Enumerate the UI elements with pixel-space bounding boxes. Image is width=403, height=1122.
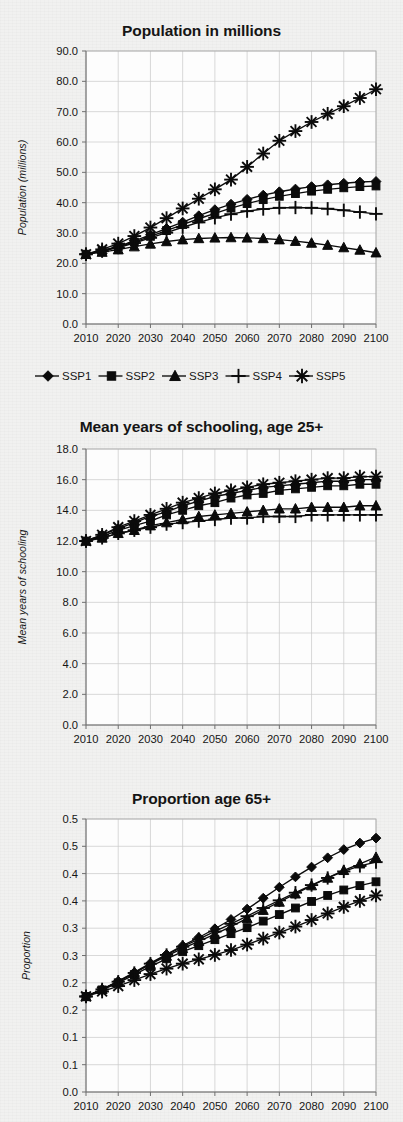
chart-proportion65: Proportion age 65+ 0.00.10.10.20.20.30.3… bbox=[0, 764, 403, 1122]
marker-square bbox=[107, 371, 115, 379]
x-tick-label: 2080 bbox=[299, 332, 324, 344]
x-tick-label: 2030 bbox=[138, 733, 163, 745]
y-tick-label: 0.1 bbox=[62, 1031, 78, 1043]
x-tick-label: 2060 bbox=[235, 332, 260, 344]
y-axis: 0.010.020.030.040.050.060.070.080.090.0 bbox=[56, 45, 86, 330]
x-tick-label: 2100 bbox=[364, 733, 389, 745]
x-tick-label: 2040 bbox=[170, 332, 195, 344]
figure-page: Population in millions 0.010.020.030.040… bbox=[0, 0, 403, 1122]
legend-entry-SSP3[interactable]: SSP3 bbox=[162, 370, 218, 382]
x-tick-label: 2050 bbox=[202, 733, 227, 745]
marker-square bbox=[308, 187, 316, 195]
marker-square bbox=[292, 904, 300, 912]
x-tick-label: 2080 bbox=[299, 733, 324, 745]
plot-background bbox=[86, 51, 376, 324]
y-axis-title: Proportion bbox=[20, 931, 32, 980]
x-tick-label: 2060 bbox=[235, 1100, 260, 1112]
y-tick-label: 0.0 bbox=[62, 318, 78, 330]
x-tick-label: 2100 bbox=[364, 332, 389, 344]
marker-square bbox=[372, 877, 380, 885]
y-tick-label: 6.0 bbox=[62, 627, 78, 639]
y-tick-label: 20.0 bbox=[56, 257, 78, 269]
y-tick-label: 0.2 bbox=[62, 976, 78, 988]
y-tick-label: 0.2 bbox=[62, 1004, 78, 1016]
y-tick-label: 0.0 bbox=[62, 719, 78, 731]
x-tick-label: 2010 bbox=[74, 733, 99, 745]
y-tick-label: 40.0 bbox=[56, 196, 78, 208]
y-tick-label: 30.0 bbox=[56, 227, 78, 239]
y-tick-label: 80.0 bbox=[56, 75, 78, 87]
marker-square bbox=[356, 182, 364, 190]
chart-plot-area: 0.02.04.06.08.010.012.014.016.018.020102… bbox=[0, 437, 403, 767]
legend-label: SSP4 bbox=[253, 370, 283, 382]
population-plot-svg: 0.010.020.030.040.050.060.070.080.090.02… bbox=[0, 41, 403, 361]
x-tick-label: 2050 bbox=[202, 1100, 227, 1112]
x-axis: 2010202020302040205020602070208020902100 bbox=[74, 1092, 389, 1112]
legend-entry-SSP2[interactable]: SSP2 bbox=[99, 370, 155, 382]
x-tick-label: 2020 bbox=[106, 1100, 131, 1112]
chart-schooling: Mean years of schooling, age 25+ 0.02.04… bbox=[0, 392, 403, 764]
legend-label: SSP5 bbox=[316, 370, 345, 382]
x-tick-label: 2040 bbox=[170, 1100, 195, 1112]
schooling-plot-svg: 0.02.04.06.08.010.012.014.016.018.020102… bbox=[0, 437, 403, 767]
x-tick-label: 2070 bbox=[267, 733, 292, 745]
y-tick-label: 0.5 bbox=[62, 813, 78, 825]
x-tick-label: 2030 bbox=[138, 1100, 163, 1112]
y-tick-label: 60.0 bbox=[56, 136, 78, 148]
marker-square bbox=[308, 897, 316, 905]
marker-square bbox=[356, 881, 364, 889]
y-tick-label: 0.5 bbox=[62, 840, 78, 852]
y-axis-title: Mean years of schooling bbox=[16, 529, 28, 644]
chart-legend: SSP1SSP2SSP3SSP4SSP5 bbox=[0, 361, 403, 391]
x-tick-label: 2010 bbox=[74, 1100, 99, 1112]
x-tick-label: 2090 bbox=[331, 733, 356, 745]
x-tick-label: 2090 bbox=[331, 332, 356, 344]
proportion65-plot-svg: 0.00.10.10.20.20.30.30.40.40.50.52010202… bbox=[0, 809, 403, 1122]
legend-entry-SSP5[interactable]: SSP5 bbox=[289, 368, 345, 383]
chart-plot-area: 0.010.020.030.040.050.060.070.080.090.02… bbox=[0, 41, 403, 361]
chart-plot-area: 0.00.10.10.20.20.30.30.40.40.50.52010202… bbox=[0, 809, 403, 1122]
marker-square bbox=[324, 185, 332, 193]
y-tick-label: 10.0 bbox=[56, 565, 78, 577]
marker-square bbox=[372, 182, 380, 190]
y-axis: 0.02.04.06.08.010.012.014.016.018.0 bbox=[56, 443, 86, 731]
y-tick-label: 18.0 bbox=[56, 443, 78, 455]
legend-entry-SSP4[interactable]: SSP4 bbox=[226, 368, 283, 382]
y-tick-label: 4.0 bbox=[62, 657, 78, 669]
marker-square bbox=[275, 192, 283, 200]
y-axis: 0.00.10.10.20.20.30.30.40.40.50.5 bbox=[62, 813, 86, 1098]
x-tick-label: 2050 bbox=[202, 332, 227, 344]
y-tick-label: 0.1 bbox=[62, 1058, 78, 1070]
chart-population: Population in millions 0.010.020.030.040… bbox=[0, 0, 403, 392]
x-tick-label: 2010 bbox=[74, 332, 99, 344]
y-tick-label: 14.0 bbox=[56, 504, 78, 516]
legend-label: SSP2 bbox=[126, 370, 155, 382]
marker-square bbox=[275, 910, 283, 918]
x-axis: 2010202020302040205020602070208020902100 bbox=[74, 324, 389, 344]
legend-label: SSP1 bbox=[62, 370, 91, 382]
chart-title: Population in millions bbox=[0, 0, 403, 41]
y-tick-label: 50.0 bbox=[56, 166, 78, 178]
y-tick-label: 8.0 bbox=[62, 596, 78, 608]
y-tick-label: 10.0 bbox=[56, 287, 78, 299]
marker-square bbox=[340, 183, 348, 191]
y-tick-label: 0.4 bbox=[62, 867, 78, 879]
x-tick-label: 2070 bbox=[267, 332, 292, 344]
marker-diamond bbox=[43, 370, 54, 381]
x-tick-label: 2080 bbox=[299, 1100, 324, 1112]
chart-title: Proportion age 65+ bbox=[0, 764, 403, 809]
legend-label: SSP3 bbox=[189, 370, 218, 382]
x-tick-label: 2030 bbox=[138, 332, 163, 344]
x-tick-label: 2090 bbox=[331, 1100, 356, 1112]
y-tick-label: 0.3 bbox=[62, 922, 78, 934]
x-tick-label: 2060 bbox=[235, 733, 260, 745]
x-tick-label: 2070 bbox=[267, 1100, 292, 1112]
x-tick-label: 2040 bbox=[170, 733, 195, 745]
marker-square bbox=[259, 195, 267, 203]
marker-square bbox=[340, 886, 348, 894]
marker-square bbox=[324, 891, 332, 899]
x-tick-label: 2020 bbox=[106, 332, 131, 344]
y-tick-label: 0.3 bbox=[62, 949, 78, 961]
legend-entry-SSP1[interactable]: SSP1 bbox=[35, 370, 91, 382]
x-tick-label: 2100 bbox=[364, 1100, 389, 1112]
